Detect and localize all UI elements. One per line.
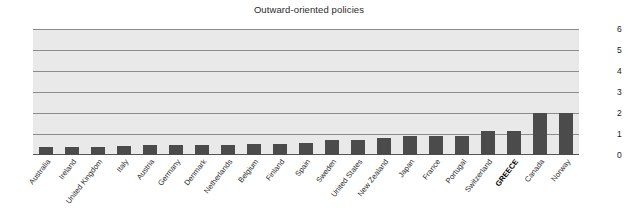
chart-title: Outward-oriented policies: [0, 4, 618, 15]
bar-united-kingdom: [85, 29, 111, 155]
x-label-slot: United Kingdom: [85, 157, 111, 220]
bar-united-states: [345, 29, 371, 155]
x-label-slot: Germany: [163, 157, 189, 220]
x-label-slot: Finland: [267, 157, 293, 220]
bar-rect: [117, 146, 131, 155]
x-label-slot: Belgium: [241, 157, 267, 220]
bar-rect: [247, 144, 261, 155]
x-axis-label-italy: Italy: [115, 158, 130, 174]
bar-rect: [481, 131, 495, 155]
bar-rect: [273, 144, 287, 155]
x-label-slot: New Zealand: [371, 157, 397, 220]
bar-rect: [403, 136, 417, 155]
bar-rect: [429, 136, 443, 155]
x-axis-label-japan: Japan: [397, 158, 416, 179]
bar-rect: [533, 113, 547, 155]
y-axis-right-tick-4: 4: [617, 67, 626, 76]
x-label-slot: Italy: [111, 157, 137, 220]
bar-rect: [195, 145, 209, 155]
bar-japan: [397, 29, 423, 155]
bar-austria: [137, 29, 163, 155]
bar-portugal: [449, 29, 475, 155]
bar-rect: [169, 145, 183, 155]
bar-new-zealand: [371, 29, 397, 155]
bar-rect: [65, 147, 79, 155]
x-axis-label-france: France: [421, 158, 442, 181]
bar-australia: [33, 29, 59, 155]
bar-belgium: [241, 29, 267, 155]
bar-italy: [111, 29, 137, 155]
y-axis-right-tick-5: 5: [617, 46, 626, 55]
x-label-slot: Canada: [527, 157, 553, 220]
x-axis-label-portugal: Portugal: [445, 158, 468, 185]
bar-norway: [553, 29, 579, 155]
y-axis-right-tick-1: 1: [617, 130, 626, 139]
bar-rect: [455, 136, 469, 155]
bar-rect: [377, 138, 391, 155]
bar-rect: [299, 143, 313, 155]
bar-rect: [507, 131, 521, 155]
x-axis-label-canada: Canada: [524, 158, 546, 184]
bar-germany: [163, 29, 189, 155]
x-axis-label-belgium: Belgium: [237, 158, 260, 184]
bar-finland: [267, 29, 293, 155]
x-label-slot: Norway: [553, 157, 579, 220]
x-axis-labels: AustraliaIrelandUnited KingdomItalyAustr…: [33, 157, 579, 220]
bar-denmark: [189, 29, 215, 155]
bar-rect: [325, 140, 339, 155]
x-axis-label-finland: Finland: [265, 158, 286, 182]
bars-layer: [33, 29, 579, 155]
x-label-slot: Austria: [137, 157, 163, 220]
x-label-slot: Netherlands: [215, 157, 241, 220]
x-label-slot: Australia: [33, 157, 59, 220]
bar-rect: [221, 145, 235, 155]
bar-sweden: [319, 29, 345, 155]
bar-canada: [527, 29, 553, 155]
x-axis-label-sweden: Sweden: [315, 158, 338, 184]
y-axis-right-tick-2: 2: [617, 109, 626, 118]
y-axis-right-tick-6: 6: [617, 25, 626, 34]
x-axis-label-australia: Australia: [28, 158, 52, 186]
bar-rect: [351, 140, 365, 155]
y-axis-right-tick-0: 0: [617, 151, 626, 160]
bar-netherlands: [215, 29, 241, 155]
bar-ireland: [59, 29, 85, 155]
bar-greece: [501, 29, 527, 155]
x-label-slot: Spain: [293, 157, 319, 220]
x-label-slot: France: [423, 157, 449, 220]
x-label-slot: Japan: [397, 157, 423, 220]
x-axis-label-norway: Norway: [550, 158, 572, 183]
x-axis-label-austria: Austria: [135, 158, 156, 181]
y-axis-right-tick-3: 3: [617, 88, 626, 97]
x-label-slot: GREECE: [501, 157, 527, 220]
bar-spain: [293, 29, 319, 155]
x-label-slot: Switzerland: [475, 157, 501, 220]
x-axis-label-spain: Spain: [294, 158, 312, 178]
bar-rect: [143, 145, 157, 155]
bar-rect: [559, 113, 573, 155]
x-axis-label-ireland: Ireland: [58, 158, 78, 181]
bar-rect: [39, 147, 53, 155]
bar-switzerland: [475, 29, 501, 155]
bar-rect: [91, 147, 105, 155]
bar-france: [423, 29, 449, 155]
